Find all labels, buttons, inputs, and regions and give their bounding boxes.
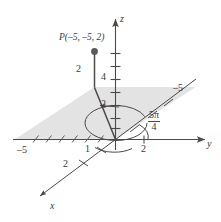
x-tick-label-1: 1 [85, 144, 90, 154]
diagonal-tick-label-neg5: –5 [173, 83, 183, 93]
y-tick-label-neg5: –5 [17, 145, 27, 155]
angle-denominator: 4 [148, 122, 160, 133]
y-axis-label: y [207, 139, 211, 149]
z-tick-label-2: 2 [101, 99, 106, 109]
x-tick-label-2: 2 [63, 159, 68, 169]
point-p-label: P(–5, –5, 2) [59, 33, 104, 43]
angle-label-5pi-over-4: 5π 4 [148, 110, 160, 132]
point-height-label: 2 [76, 64, 81, 74]
angle-numerator: 5π [148, 110, 160, 122]
z-axis-label: z [120, 14, 124, 24]
y-tick-label-2: 2 [141, 144, 146, 154]
figure-container: z y x P(–5, –5, 2) 2 4 2 –5 2 1 2 –5 5π … [0, 0, 221, 222]
angle-arc-lower [95, 148, 132, 153]
x-axis [40, 140, 116, 197]
point-marker [91, 48, 98, 55]
z-tick-label-4: 4 [101, 72, 106, 82]
x-axis-label: x [50, 201, 54, 211]
coordinate-system-graphic [0, 0, 221, 222]
